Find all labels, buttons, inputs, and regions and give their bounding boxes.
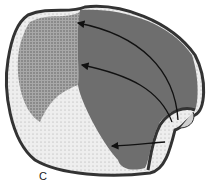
embryo-diagram (0, 0, 207, 185)
panel-label: C (39, 170, 47, 182)
